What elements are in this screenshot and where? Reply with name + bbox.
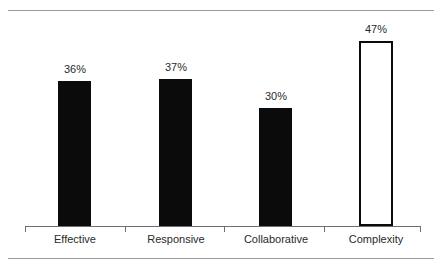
x-axis-tick — [224, 226, 225, 232]
bar-responsive — [159, 79, 192, 226]
bar-complexity — [359, 41, 393, 226]
bar-value-label-responsive: 37% — [146, 61, 206, 73]
bar-collaborative — [259, 108, 292, 226]
bar-chart-figure: 36% Effective 37% Responsive 30% Collabo… — [0, 0, 442, 270]
bar-value-label-complexity: 47% — [346, 23, 406, 35]
x-axis-tick — [324, 226, 325, 232]
category-label-collaborative: Collaborative — [228, 233, 324, 245]
category-label-responsive: Responsive — [130, 233, 222, 245]
category-label-complexity: Complexity — [332, 233, 420, 245]
category-label-effective: Effective — [35, 233, 115, 245]
plot-area: 36% Effective 37% Responsive 30% Collabo… — [0, 0, 442, 270]
x-axis-tick — [125, 226, 126, 232]
bar-value-label-effective: 36% — [45, 63, 105, 75]
x-axis-tick — [25, 226, 26, 232]
bar-value-label-collaborative: 30% — [246, 90, 306, 102]
bar-effective — [58, 81, 91, 226]
x-axis-tick — [420, 226, 421, 232]
x-axis-line — [25, 226, 421, 227]
